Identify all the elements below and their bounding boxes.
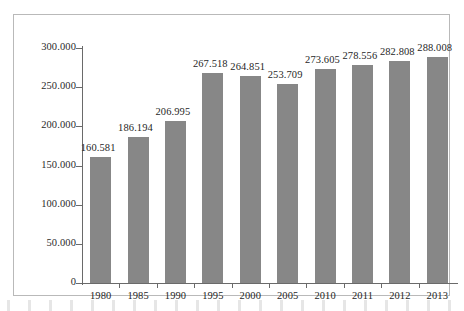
bar-value-label: 273.605 (305, 55, 340, 66)
y-axis-label: 100.000 (20, 199, 76, 211)
x-axis-tick (194, 283, 195, 288)
bar[interactable] (277, 84, 298, 283)
chart-frame: 050.000100.000150.000200.000250.000300.0… (13, 14, 450, 296)
bar-value-label: 206.995 (156, 107, 191, 118)
y-axis-label-text: 200.000 (24, 120, 76, 131)
plot-area (82, 48, 456, 283)
bar[interactable] (202, 73, 223, 283)
bar[interactable] (128, 137, 149, 283)
bar-chart-figure: 050.000100.000150.000200.000250.000300.0… (0, 0, 464, 311)
bar[interactable] (90, 157, 111, 283)
y-axis-label-text: 250.000 (24, 81, 76, 92)
y-axis-label: 50.000 (20, 238, 76, 250)
bar-value-label: 264.851 (230, 62, 265, 73)
x-axis-tick (119, 283, 120, 288)
y-axis-label-text: 100.000 (24, 199, 76, 210)
y-axis-tick (76, 283, 82, 284)
y-axis-label-text: 150.000 (24, 160, 76, 171)
bar[interactable] (389, 61, 410, 283)
x-axis-tick (344, 283, 345, 288)
bar-value-label: 267.518 (193, 59, 228, 70)
bar-value-label: 186.194 (118, 123, 153, 134)
x-axis-tick (157, 283, 158, 288)
y-axis-label-text: 0 (24, 277, 76, 288)
x-axis-tick (269, 283, 270, 288)
bar[interactable] (427, 57, 448, 283)
scan-artifact (0, 300, 464, 311)
bar-value-label: 288.008 (417, 43, 452, 54)
y-axis-label-text: 50.000 (24, 238, 76, 249)
y-axis-label: 0 (20, 277, 76, 289)
x-axis-tick (306, 283, 307, 288)
bar[interactable] (165, 121, 186, 283)
bar[interactable] (315, 69, 336, 283)
x-axis-tick (232, 283, 233, 288)
x-axis-tick (381, 283, 382, 288)
y-axis-label: 250.000 (20, 81, 76, 93)
y-axis-label-text: 300.000 (24, 42, 76, 53)
bar-value-label: 282.808 (380, 47, 415, 58)
y-axis-label: 200.000 (20, 120, 76, 132)
bar-value-label: 253.709 (268, 70, 303, 81)
x-axis-line (82, 283, 458, 284)
x-axis-tick (419, 283, 420, 288)
y-axis-label: 150.000 (20, 160, 76, 172)
y-axis-label: 300.000 (20, 42, 76, 54)
bar[interactable] (240, 76, 261, 283)
bar-value-label: 160.581 (81, 143, 116, 154)
bar-value-label: 278.556 (343, 51, 378, 62)
bar[interactable] (352, 65, 373, 283)
